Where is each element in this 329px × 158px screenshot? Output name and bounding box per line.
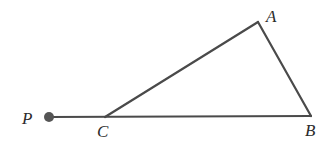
label-p: P: [21, 109, 32, 128]
label-a: A: [265, 7, 277, 26]
segment-ab: [258, 22, 311, 116]
segment-ca: [105, 22, 258, 117]
label-c: C: [97, 122, 109, 141]
segment-pb: [49, 116, 311, 117]
triangle-diagram: P C B A: [0, 0, 329, 158]
point-p-dot: [44, 112, 54, 122]
label-b: B: [305, 121, 316, 140]
